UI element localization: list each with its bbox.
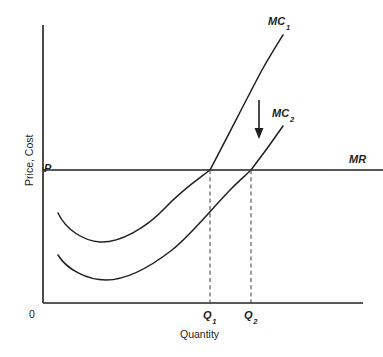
- economics-chart-figure: MC1 MC2 MR P Q1 Q2 0 Quantity Price, Cos…: [0, 0, 383, 357]
- q1-label: Q1: [203, 310, 216, 324]
- x-axis-title: Quantity: [180, 329, 219, 340]
- chart-canvas: [0, 0, 383, 357]
- origin-label: 0: [29, 309, 35, 320]
- q2-label: Q2: [244, 310, 257, 324]
- downward-shift-arrow: [255, 100, 264, 139]
- mc1-curve: [58, 35, 283, 242]
- mr-label: MR: [349, 154, 367, 165]
- mc2-label: MC2: [272, 108, 294, 122]
- y-axis-title: Price, Cost: [24, 115, 35, 205]
- mc1-label: MC1: [268, 16, 290, 30]
- price-level-label: P: [44, 163, 52, 174]
